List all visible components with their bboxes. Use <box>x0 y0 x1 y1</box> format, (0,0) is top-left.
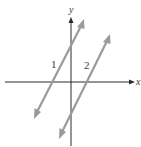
line-2-segment <box>62 41 107 132</box>
y-axis-arrow-icon <box>69 17 74 23</box>
y-axis-label: y <box>68 4 74 15</box>
line-2 <box>59 34 111 139</box>
x-axis-arrow-icon <box>129 80 135 85</box>
line-2-arrow-top-icon <box>103 34 111 44</box>
x-axis-label: x <box>135 76 141 87</box>
line-1-segment <box>37 26 81 112</box>
line-1-label: 1 <box>51 58 57 70</box>
line-1-arrow-top-icon <box>77 19 85 29</box>
coordinate-diagram: x y 1 2 <box>0 0 141 147</box>
line-2-label: 2 <box>84 59 90 71</box>
